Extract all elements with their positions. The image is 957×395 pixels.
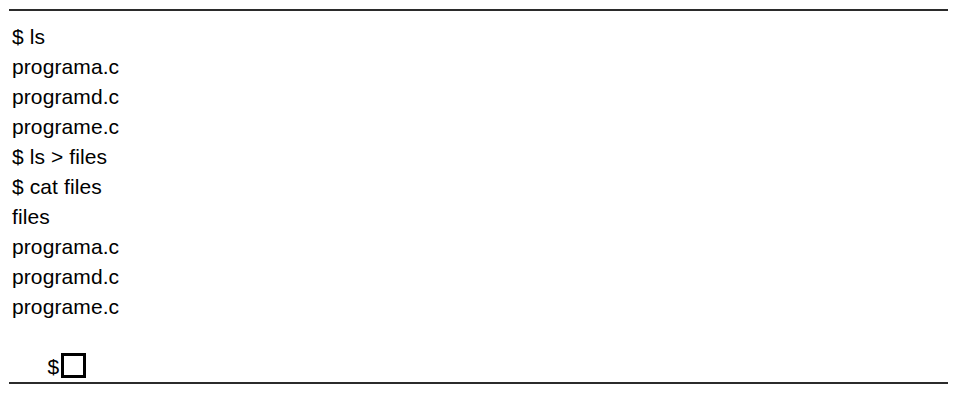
bottom-horizontal-rule — [9, 382, 948, 384]
terminal-transcript-figure: $ ls programa.c programd.c programe.c $ … — [0, 0, 957, 395]
terminal-line: $ ls > files — [12, 142, 912, 172]
terminal-line: programe.c — [12, 292, 912, 322]
terminal-line: files — [12, 202, 912, 232]
terminal-line: programd.c — [12, 262, 912, 292]
top-horizontal-rule — [9, 9, 948, 11]
terminal-prompt-line: $ — [12, 322, 912, 352]
block-cursor-icon — [61, 353, 86, 378]
terminal-line: $ cat files — [12, 172, 912, 202]
terminal-line: programa.c — [12, 52, 912, 82]
terminal-line: programe.c — [12, 112, 912, 142]
terminal-line: programa.c — [12, 232, 912, 262]
terminal-output-area[interactable]: $ ls programa.c programd.c programe.c $ … — [12, 22, 912, 352]
prompt-symbol: $ — [48, 355, 60, 378]
terminal-line: $ ls — [12, 22, 912, 52]
terminal-line: programd.c — [12, 82, 912, 112]
